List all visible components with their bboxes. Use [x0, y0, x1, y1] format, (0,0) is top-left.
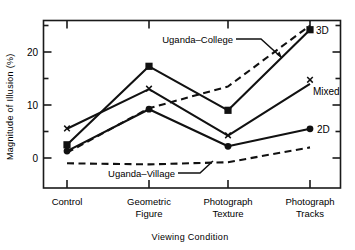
- x-category-label-photograph-texture-line2: Texture: [212, 208, 243, 219]
- series-line-uganda-village: [67, 147, 310, 164]
- x-category-label-photograph-tracks-line1: Photograph: [285, 196, 334, 207]
- x-category-label-photograph-tracks-line2: Tracks: [296, 208, 324, 219]
- x-category-label-control: Control: [52, 196, 83, 207]
- x-category-label-geometric-figure-line2: Figure: [136, 208, 163, 219]
- data-point-2d-photograph-texture: [225, 143, 232, 150]
- illusion-magnitude-line-chart: Magnitude of Illusion (%) 0 10 20 Contro…: [0, 0, 355, 250]
- plot-frame: [44, 21, 341, 189]
- data-point-2d-photograph-tracks: [307, 125, 314, 132]
- y-axis-label: Magnitude of Illusion (%): [5, 53, 15, 160]
- data-point-3d-photograph-texture: [224, 107, 231, 114]
- y-tick-label-20: 20: [27, 47, 39, 58]
- x-category-label-geometric-figure-line1: Geometric: [127, 196, 171, 207]
- data-point-3d-control: [63, 141, 70, 148]
- leader-uganda-college: [236, 39, 282, 58]
- data-point-mixed-geometric-figure: [146, 86, 152, 92]
- series-label-mixed: Mixed: [313, 86, 340, 97]
- chart-figure: Magnitude of Illusion (%) 0 10 20 Contro…: [0, 0, 355, 250]
- series-line-2d: [67, 109, 310, 151]
- data-point-3d-geometric-figure: [145, 63, 152, 70]
- annotation-uganda-village: Uganda–Village: [108, 168, 175, 179]
- plot-border: [44, 21, 341, 189]
- data-point-mixed-photograph-tracks: [307, 77, 313, 83]
- data-point-2d-geometric-figure: [146, 106, 153, 113]
- data-point-2d-control: [64, 148, 71, 155]
- leader-arrowhead-uganda-college: [277, 52, 283, 59]
- series-label-3d: 3D: [316, 25, 329, 36]
- series-label-2d: 2D: [317, 124, 330, 135]
- y-tick-label-0: 0: [32, 153, 38, 164]
- annotation-uganda-college: Uganda–College: [162, 34, 233, 45]
- y-tick-label-10: 10: [27, 100, 39, 111]
- x-axis-label: Viewing Condition: [152, 232, 229, 242]
- x-category-label-photograph-texture-line1: Photograph: [203, 196, 252, 207]
- data-point-3d-photograph-tracks: [306, 26, 313, 33]
- series-markers-mixed: [64, 77, 313, 138]
